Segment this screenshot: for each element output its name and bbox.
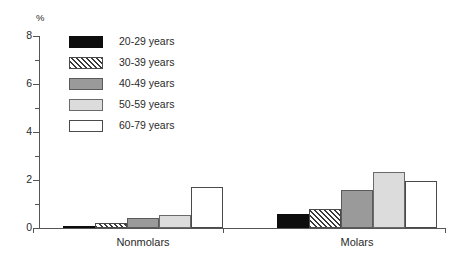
legend-item[interactable]: 40-49 years: [69, 73, 174, 94]
legend-swatch-icon: [69, 57, 103, 69]
legend-item-label: 20-29 years: [119, 36, 174, 47]
bar-molars-30-39: [309, 209, 341, 228]
legend-item-label: 60-79 years: [119, 120, 174, 131]
bar-nonmolars-50-59: [159, 215, 191, 228]
legend-swatch-icon: [69, 78, 103, 90]
bar-molars-50-59: [373, 172, 405, 228]
legend-item[interactable]: 30-39 years: [69, 52, 174, 73]
legend-swatch-icon: [69, 36, 103, 48]
legend-item[interactable]: 50-59 years: [69, 94, 174, 115]
bar-molars-20-29: [277, 214, 309, 228]
legend-swatch-icon: [69, 99, 103, 111]
bar-chart: % 02468 NonmolarsMolars 20-29 years30-39…: [0, 0, 457, 261]
bar-nonmolars-20-29: [63, 226, 95, 228]
legend-item-label: 50-59 years: [119, 99, 174, 110]
legend-item-label: 40-49 years: [119, 78, 174, 89]
x-tick: [223, 228, 224, 233]
legend-item[interactable]: 20-29 years: [69, 31, 174, 52]
legend-item-label: 30-39 years: [119, 57, 174, 68]
x-tick: [33, 228, 34, 233]
legend: 20-29 years30-39 years40-49 years50-59 y…: [69, 31, 174, 136]
bar-nonmolars-40-49: [127, 218, 159, 228]
bar-molars-40-49: [341, 190, 373, 228]
bar-molars-60-79: [405, 181, 437, 228]
x-tick: [445, 228, 446, 233]
legend-item[interactable]: 60-79 years: [69, 115, 174, 136]
legend-swatch-icon: [69, 120, 103, 132]
bar-nonmolars-30-39: [95, 223, 127, 228]
x-group-label-nonmolars: Nonmolars: [116, 236, 169, 248]
x-group-label-molars: Molars: [340, 236, 373, 248]
bar-nonmolars-60-79: [191, 187, 223, 228]
